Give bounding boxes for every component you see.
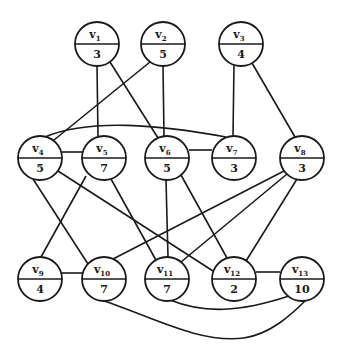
node-weight: 3 — [93, 48, 101, 61]
node-weight: 7 — [100, 162, 108, 175]
node-subscript: 12 — [230, 269, 240, 278]
graph-diagram: v13v25v34v45v57v65v73v83v94v107v117v122v… — [0, 0, 343, 355]
edge-v2-v6 — [163, 66, 164, 136]
edge-v8-v12 — [246, 179, 297, 261]
node-weight: 5 — [163, 162, 171, 175]
node-v10: v107 — [82, 257, 126, 301]
node-v4: v45 — [18, 136, 62, 180]
node-v2: v25 — [141, 22, 185, 66]
node-v12: v122 — [212, 257, 256, 301]
edge-v6-v11 — [166, 180, 168, 257]
node-subscript: 2 — [162, 34, 167, 43]
node-weight: 10 — [294, 283, 310, 296]
node-v3: v34 — [219, 22, 263, 66]
node-weight: 3 — [298, 162, 306, 175]
node-subscript: 1 — [96, 34, 101, 43]
node-subscript: 8 — [301, 148, 306, 157]
node-subscript: 10 — [100, 269, 110, 278]
node-weight: 7 — [163, 283, 171, 296]
edge-v3-v8 — [252, 63, 295, 137]
node-v1: v13 — [75, 22, 119, 66]
nodes-layer: v13v25v34v45v57v65v73v83v94v107v117v122v… — [18, 22, 324, 301]
node-subscript: 13 — [298, 269, 308, 278]
node-v6: v65 — [145, 136, 189, 180]
edge-v8-v10 — [113, 171, 284, 259]
node-subscript: 3 — [240, 34, 245, 43]
node-v9: v94 — [18, 257, 62, 301]
edge-v6-v12 — [181, 175, 227, 258]
node-subscript: 5 — [103, 148, 108, 157]
node-subscript: 6 — [166, 148, 171, 157]
node-subscript: 9 — [39, 269, 44, 278]
edge-v4-v7 — [45, 125, 226, 137]
edge-v5-v11 — [111, 179, 157, 262]
edge-v10-v13 — [104, 300, 306, 339]
edge-v2-v4 — [54, 62, 150, 140]
node-subscript: 11 — [163, 269, 173, 278]
graph-svg: v13v25v34v45v57v65v73v83v94v107v117v122v… — [0, 0, 343, 355]
node-subscript: 4 — [39, 148, 44, 157]
node-v11: v117 — [145, 257, 189, 301]
node-v8: v83 — [280, 136, 324, 180]
node-weight: 4 — [237, 48, 245, 61]
node-v5: v57 — [82, 136, 126, 180]
edge-v5-v9 — [41, 176, 86, 257]
node-weight: 7 — [100, 283, 108, 296]
edge-v8-v11 — [181, 174, 287, 262]
node-weight: 5 — [36, 162, 44, 175]
edge-v3-v7 — [233, 64, 234, 136]
node-weight: 2 — [230, 283, 238, 296]
node-subscript: 7 — [233, 148, 238, 157]
node-weight: 5 — [159, 48, 167, 61]
node-v13: v1310 — [280, 257, 324, 301]
node-v7: v73 — [212, 136, 256, 180]
node-weight: 3 — [230, 162, 238, 175]
node-weight: 4 — [36, 283, 44, 296]
